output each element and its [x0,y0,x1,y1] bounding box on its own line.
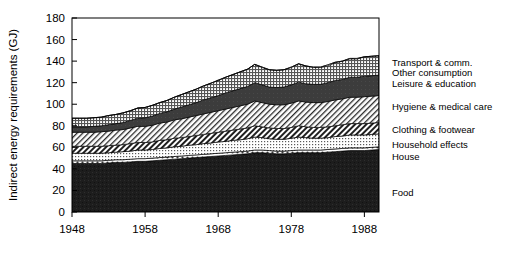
x-axis-tick-label: 1968 [205,223,231,235]
y-axis-title: Indirect energy requirements (GJ) [7,29,19,201]
legend-label-food: Food [392,187,414,198]
y-axis-tick-label: 180 [46,12,65,24]
legend-label-house: House [392,151,419,162]
y-axis-tick-label: 0 [59,206,65,218]
y-axis-tick-label: 120 [46,77,65,89]
legend-label-leisure-education: Leisure & education [392,78,476,89]
chart-figure: 020406080100120140160180 194819581968197… [0,0,519,257]
x-axis-tick-label: 1948 [59,223,85,235]
x-axis-tick-label: 1978 [278,223,304,235]
y-axis-tick-label: 40 [52,163,65,175]
y-axis-tick-label: 140 [46,55,65,67]
legend-label-household-effects: Household effects [392,139,468,150]
legend-label-clothing-footwear: Clothing & footwear [392,124,475,135]
y-axis-tick-label: 160 [46,34,65,46]
y-axis-tick-label: 100 [46,98,65,110]
y-axis-tick-label: 60 [52,141,65,153]
y-axis-tick-label: 80 [52,120,65,132]
y-axis-tick-label: 20 [52,184,65,196]
x-axis-tick-label: 1988 [352,223,378,235]
legend-label-hygiene-medical-care: Hygiene & medical care [392,101,492,112]
stacked-area-chart: 020406080100120140160180 194819581968197… [0,0,519,257]
legend-label-other-consumption: Other consumption [392,67,472,78]
plot-area [72,18,379,212]
x-axis-tick-label: 1958 [132,223,158,235]
